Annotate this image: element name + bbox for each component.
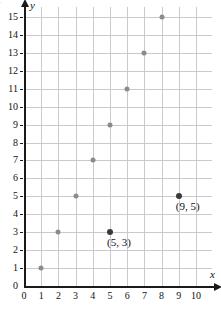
- x-axis: [24, 286, 214, 288]
- y-tick-mark: [20, 160, 23, 161]
- scatter-plot: ' xy0123456789100123456789101112131415(5…: [0, 0, 221, 311]
- y-tick-label: 6: [2, 172, 18, 183]
- y-tick-label: 7: [2, 154, 18, 165]
- point-label: (5, 3): [107, 236, 131, 248]
- data-point: [73, 194, 78, 199]
- y-tick-mark: [20, 125, 23, 126]
- gridline-horizontal: [24, 250, 212, 251]
- data-point: [90, 158, 95, 163]
- y-tick-label: 8: [2, 137, 18, 148]
- gridline-horizontal: [24, 214, 212, 215]
- data-point: [176, 193, 182, 199]
- y-tick-label: 11: [2, 83, 18, 94]
- gridline-vertical: [76, 7, 77, 286]
- gridline-horizontal: [24, 107, 212, 108]
- gridline-horizontal: [24, 71, 212, 72]
- scan-artifact: ': [0, 0, 1, 8]
- gridline-horizontal: [24, 143, 212, 144]
- y-tick-label: 13: [2, 47, 18, 58]
- y-tick-mark: [20, 35, 23, 36]
- x-tick-label: 2: [49, 290, 67, 301]
- gridline-horizontal: [24, 53, 212, 54]
- x-tick-label: 5: [101, 290, 119, 301]
- gridline-horizontal: [24, 17, 212, 18]
- gridline-horizontal: [24, 178, 212, 179]
- x-tick-label: 6: [118, 290, 136, 301]
- y-tick-mark: [20, 53, 23, 54]
- y-tick-label: 0: [2, 280, 18, 291]
- point-label: (9, 5): [176, 200, 200, 212]
- x-tick-label: 9: [170, 290, 188, 301]
- gridline-horizontal: [24, 196, 212, 197]
- y-tick-mark: [20, 17, 23, 18]
- gridline-horizontal: [24, 268, 212, 269]
- gridline-vertical: [179, 7, 180, 286]
- y-tick-label: 1: [2, 262, 18, 273]
- y-tick-label: 14: [2, 29, 18, 40]
- y-tick-label: 10: [2, 101, 18, 112]
- gridline-horizontal: [24, 89, 212, 90]
- x-tick-label: 10: [187, 290, 205, 301]
- x-axis-label: x: [210, 268, 215, 280]
- gridline-horizontal: [24, 160, 212, 161]
- data-point: [39, 266, 44, 271]
- gridline-vertical: [196, 7, 197, 286]
- y-axis-label: y: [30, 0, 35, 11]
- gridline-vertical: [162, 7, 163, 286]
- y-tick-mark: [20, 178, 23, 179]
- y-tick-label: 3: [2, 226, 18, 237]
- x-tick-label: 4: [84, 290, 102, 301]
- y-axis: [24, 7, 26, 288]
- y-tick-label: 2: [2, 244, 18, 255]
- gridline-horizontal: [24, 35, 212, 36]
- y-tick-label: 15: [2, 11, 18, 22]
- y-tick-mark: [20, 250, 23, 251]
- data-point: [142, 50, 147, 55]
- x-tick-label: 0: [15, 290, 33, 301]
- gridline-horizontal: [24, 125, 212, 126]
- y-tick-label: 5: [2, 190, 18, 201]
- y-axis-arrow: [21, 0, 29, 7]
- data-point: [125, 86, 130, 91]
- x-tick-label: 7: [135, 290, 153, 301]
- data-point: [159, 15, 164, 20]
- x-tick-label: 3: [67, 290, 85, 301]
- y-tick-mark: [20, 107, 23, 108]
- gridline-vertical: [58, 7, 59, 286]
- y-tick-mark: [20, 268, 23, 269]
- data-point: [108, 122, 113, 127]
- y-tick-label: 12: [2, 65, 18, 76]
- data-point: [56, 230, 61, 235]
- y-tick-label: 9: [2, 119, 18, 130]
- x-axis-arrow: [214, 283, 221, 291]
- gridline-vertical: [93, 7, 94, 286]
- gridline-vertical: [144, 7, 145, 286]
- gridline-vertical: [41, 7, 42, 286]
- x-tick-label: 8: [153, 290, 171, 301]
- gridline-horizontal: [24, 232, 212, 233]
- y-tick-mark: [20, 214, 23, 215]
- y-tick-mark: [20, 89, 23, 90]
- data-point: [107, 229, 113, 235]
- y-tick-mark: [20, 143, 23, 144]
- x-tick-label: 1: [32, 290, 50, 301]
- y-tick-mark: [20, 232, 23, 233]
- y-tick-label: 4: [2, 208, 18, 219]
- y-tick-mark: [20, 196, 23, 197]
- y-tick-mark: [20, 71, 23, 72]
